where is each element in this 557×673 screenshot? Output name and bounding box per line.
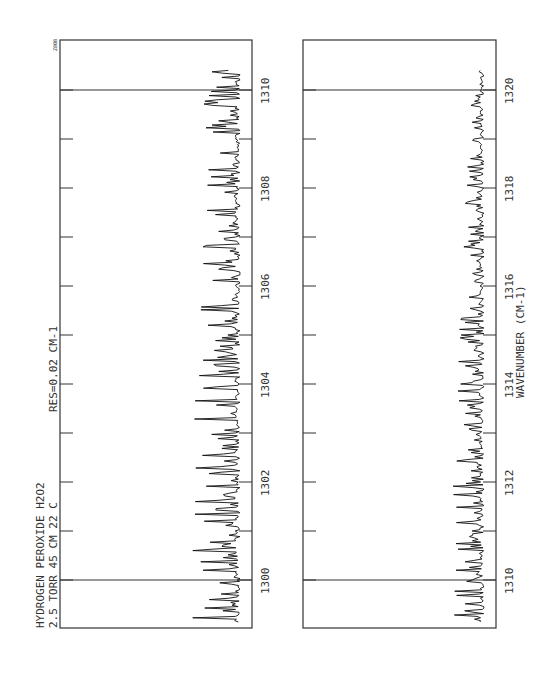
lower-spectrum-trace xyxy=(453,70,484,622)
upper-spectrum-trace xyxy=(193,70,240,622)
tick-label: 1310 xyxy=(503,568,516,595)
sample-title: HYDROGEN PEROXIDE H2O2 xyxy=(34,482,47,628)
tick-label: 1318 xyxy=(503,176,516,203)
x-axis-title: WAVENUMBER (CM-1) xyxy=(514,285,527,398)
tick-label: 1308 xyxy=(259,176,272,203)
tick-label: 1300 xyxy=(259,568,272,595)
upper-tick-labels: 130013021304130613081310 xyxy=(259,78,272,595)
tick-label: 1306 xyxy=(259,274,272,301)
tick-label: 1304 xyxy=(259,371,272,398)
lower-panel: 131013121314131613181320 xyxy=(303,40,516,628)
tick-label: 1312 xyxy=(503,470,516,497)
upper-marker-lines xyxy=(60,90,252,580)
resolution-label: RES=0.02 CM-1 xyxy=(47,326,60,412)
plot-id-label: Z80B xyxy=(52,39,58,51)
spectrum-chart: 130013021304130613081310 131013121314131… xyxy=(0,0,557,673)
tick-label: 1320 xyxy=(503,78,516,105)
upper-panel: 130013021304130613081310 xyxy=(60,40,272,628)
tick-label: 1302 xyxy=(259,470,272,497)
sample-conditions: 2.5 TORR 45 CM 22 C xyxy=(47,502,60,628)
tick-label: 1310 xyxy=(259,78,272,105)
lower-frame xyxy=(303,40,496,628)
upper-ticks xyxy=(60,90,252,580)
